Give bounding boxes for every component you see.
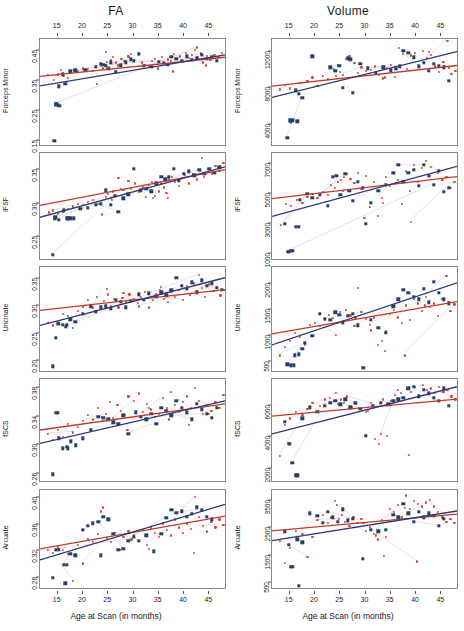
y-tick-mark [36,523,39,524]
x-tick-label: 40 [179,22,187,29]
y-tick-label: 1500 [264,555,271,569]
y-tick-mark [36,386,39,387]
y-tick-label: 0.40 [32,497,39,510]
regression-lines [272,267,457,371]
plot-area [272,153,457,259]
y-tick-mark [268,554,271,555]
x-tick-label: 30 [129,596,137,603]
y-tick-label: 5000 [264,193,271,207]
plot-area [40,267,225,371]
x-tick-mark [107,591,108,594]
x-tick-label: 20 [78,22,86,29]
red-regression-line [40,290,225,311]
blue-regression-line [272,283,457,345]
plot-area [40,379,225,481]
blue-regression-line [272,511,457,541]
x-tick-label: 45 [204,22,212,29]
x-tick-label: 25 [103,596,111,603]
x-tick-label: 40 [411,596,419,603]
x-tick-label: 40 [411,22,419,29]
y-tick-mark [36,110,39,111]
blue-regression-line [40,504,225,560]
plot-area [272,39,457,145]
x-tick-mark [339,591,340,594]
x-tick-mark [208,33,209,36]
y-axis-title: Arcuate [2,488,9,588]
regression-lines [40,39,225,145]
y-axis-title: Uncinate [234,265,241,371]
y-tick-label: 0.38 [32,387,39,400]
x-tick-mark [289,591,290,594]
panel-volume-uncinate [271,266,458,372]
y-tick-label: 0.35 [32,169,39,182]
x-tick-label: 30 [361,22,369,29]
y-tick-label: 0.25 [32,236,39,249]
y-tick-mark [268,499,271,500]
regression-lines [40,267,225,371]
column-fa: FA152025303540450.150.250.350.45Forceps … [0,0,232,631]
y-tick-mark [268,222,271,223]
y-tick-label: 2000 [264,468,271,482]
x-tick-mark [339,33,340,36]
x-tick-label: 35 [386,22,394,29]
column-title-fa: FA [0,4,232,18]
x-tick-label: 15 [53,596,61,603]
y-tick-mark [36,80,39,81]
x-axis-title-fa: Age at Scan (in months) [0,611,232,621]
y-tick-mark [36,415,39,416]
panel-volume-forceps-minor [271,38,458,146]
figure-panel-grid: FA152025303540450.150.250.350.45Forceps … [0,0,464,631]
y-tick-label: 0.20 [32,360,39,373]
x-tick-mark [390,591,391,594]
x-tick-label: 15 [285,22,293,29]
y-tick-mark [268,162,271,163]
x-tick-label: 30 [129,22,137,29]
x-tick-label: 20 [310,22,318,29]
y-tick-label: 500 [264,361,271,372]
x-tick-label: 45 [204,596,212,603]
x-tick-mark [57,33,58,36]
y-tick-label: 4000 [264,124,271,138]
x-tick-mark [158,33,159,36]
plot-area [40,39,225,145]
x-tick-mark [314,591,315,594]
y-tick-label: 4000 [264,436,271,450]
red-regression-line [272,399,457,416]
red-regression-line [272,177,457,199]
panel-volume-ifsf [271,152,458,260]
y-tick-label: 0.30 [32,444,39,457]
y-tick-mark [36,473,39,474]
y-axis-title: Arcuate [234,488,241,588]
y-tick-mark [36,497,39,498]
y-tick-label: 0.35 [32,278,39,291]
panel-fa-forceps-minor [39,38,226,146]
y-tick-mark [36,577,39,578]
x-tick-mark [183,33,184,36]
y-axis-title: IFSF [234,151,241,259]
x-tick-mark [365,33,366,36]
x-tick-label: 15 [285,596,293,603]
plot-area [272,490,457,588]
y-axis-title: fSCS [234,377,241,481]
y-tick-label: 7000 [264,163,271,177]
x-tick-label: 45 [436,22,444,29]
panel-volume-arcuate [271,489,458,589]
x-axis-top-volume: 15202530354045 [232,22,464,36]
y-tick-mark [36,50,39,51]
x-tick-mark [107,33,108,36]
x-tick-mark [415,33,416,36]
x-tick-label: 20 [310,596,318,603]
x-tick-label: 25 [335,22,343,29]
y-tick-mark [268,527,271,528]
regression-lines [40,490,225,588]
red-regression-line [272,66,457,87]
y-tick-mark [268,404,271,405]
x-tick-mark [314,33,315,36]
y-tick-mark [268,360,271,361]
y-tick-label: 3500 [264,500,271,514]
panel-fa-fscs [39,378,226,482]
x-tick-mark [440,591,441,594]
column-volume: Volume152025303540454000800012000Forceps… [232,0,464,631]
y-tick-mark [36,444,39,445]
regression-lines [272,39,457,145]
